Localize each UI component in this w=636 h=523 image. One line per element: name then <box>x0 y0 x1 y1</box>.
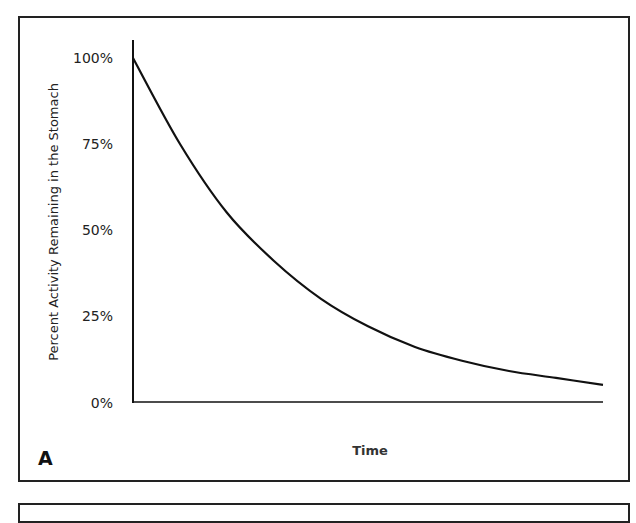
y-tick-75: 75% <box>82 136 113 152</box>
y-tick-25: 25% <box>82 308 113 324</box>
decay-curve <box>133 58 603 385</box>
x-axis-label: Time <box>352 443 388 458</box>
y-tick-50: 50% <box>82 222 113 238</box>
panel-label: A <box>38 447 53 469</box>
y-axis-label: Percent Activity Remaining in the Stomac… <box>46 83 61 361</box>
y-tick-100: 100% <box>73 50 113 66</box>
y-tick-0: 0% <box>91 395 113 411</box>
